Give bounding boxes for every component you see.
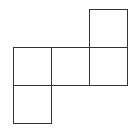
net-square xyxy=(51,47,90,86)
net-square xyxy=(13,85,52,124)
net-square xyxy=(89,47,128,86)
net-square xyxy=(89,9,128,48)
net-square xyxy=(13,47,52,86)
